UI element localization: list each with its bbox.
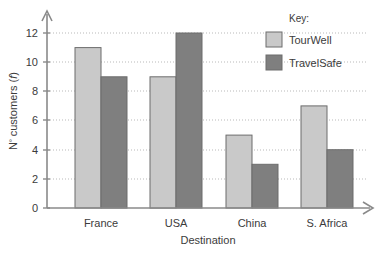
bar-group-usa — [150, 33, 202, 208]
legend: Key: TourWell TravelSafe — [266, 13, 342, 70]
bar-s-africa-tourwell — [301, 106, 327, 208]
y-tick-label-4: 4 — [32, 144, 38, 156]
y-tick-label-2: 2 — [32, 173, 38, 185]
bar-china-travelsafe — [252, 164, 278, 208]
legend-label-tourwell: TourWell — [289, 34, 332, 46]
legend-swatch-tourwell — [266, 32, 282, 47]
legend-title: Key: — [289, 13, 309, 24]
y-tick-label-6: 6 — [32, 114, 38, 126]
bar-group-china — [226, 135, 278, 208]
x-tick-label-china: China — [238, 217, 268, 229]
y-axis-title-suffix: ) — [7, 72, 19, 76]
y-tick-label-8: 8 — [32, 85, 38, 97]
x-tick-labels: France USA China S. Africa — [84, 217, 348, 229]
bar-france-tourwell — [75, 48, 101, 208]
x-axis-title: Destination — [180, 234, 235, 246]
y-axis-title-prefix: N — [7, 142, 19, 150]
legend-swatch-travelsafe — [266, 55, 282, 70]
y-tick-label-12: 12 — [26, 27, 38, 39]
bar-s-africa-travelsafe — [327, 150, 353, 208]
y-tick-labels: 12 10 8 6 4 2 0 — [26, 27, 38, 214]
x-tick-label-usa: USA — [165, 217, 188, 229]
bar-group-france — [75, 48, 127, 209]
chart-canvas: 12 10 8 6 4 2 0 France USA China S. Afri… — [0, 0, 381, 253]
bar-france-travelsafe — [101, 77, 127, 208]
y-tick-label-0: 0 — [32, 202, 38, 214]
bar-usa-travelsafe — [176, 33, 202, 208]
bar-group-s-africa — [301, 106, 353, 208]
bar-china-tourwell — [226, 135, 252, 208]
x-tick-label-france: France — [84, 217, 118, 229]
y-axis-title-mid: customers ( — [7, 79, 19, 140]
y-tick-label-10: 10 — [26, 56, 38, 68]
bar-usa-tourwell — [150, 77, 176, 208]
x-tick-label-s-africa: S. Africa — [307, 217, 349, 229]
bar-chart: 12 10 8 6 4 2 0 France USA China S. Afri… — [0, 0, 381, 253]
svg-text:Nº customers (f): Nº customers (f) — [7, 72, 19, 150]
y-axis-title: Nº customers (f) — [7, 72, 19, 150]
legend-label-travelsafe: TravelSafe — [289, 57, 342, 69]
